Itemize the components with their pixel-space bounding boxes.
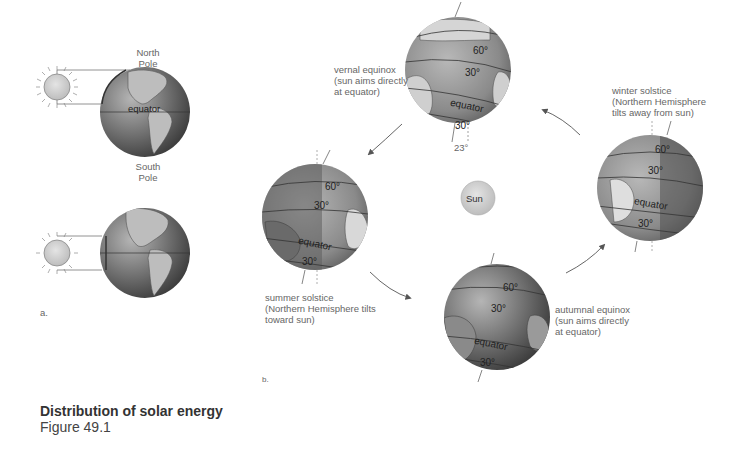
lat-30-label: 30°	[648, 165, 663, 176]
lat-30s-label: 30°	[455, 120, 470, 131]
lat-30-label: 30°	[314, 200, 329, 211]
lat-60-label: 60°	[473, 45, 488, 56]
vernal-equinox-label: vernal equinox (sun aims directly at equ…	[334, 64, 408, 97]
summer-solstice-label: summer solstice (Northern Hemisphere til…	[265, 292, 376, 325]
figure-number: Figure 49.1	[40, 419, 111, 435]
globe-winter-solstice	[597, 121, 710, 252]
lat-30-label: 30°	[491, 303, 506, 314]
winter-solstice-label: winter solstice (Northern Hemisphere til…	[612, 85, 706, 118]
lat-30s-label: 30°	[480, 357, 495, 368]
lat-60-label: 60°	[503, 282, 518, 293]
tilt-angle-label: 23°	[454, 142, 468, 153]
figure-title: Distribution of solar energy	[40, 403, 223, 419]
globe-autumnal-equinox	[444, 253, 550, 382]
equator-label: equator	[128, 103, 160, 114]
sun-icon	[36, 232, 78, 274]
autumnal-equinox-label: autumnal equinox (sun aims directly at e…	[555, 304, 630, 337]
panel-a-top	[36, 66, 190, 157]
lat-30-label: 30°	[465, 67, 480, 78]
lat-30s-label: 30°	[302, 256, 317, 267]
lat-60-label: 60°	[325, 181, 340, 192]
lat-60-label: 60°	[655, 144, 670, 155]
north-pole-label: North Pole	[128, 47, 168, 69]
sun-label: Sun	[466, 193, 483, 204]
panel-a-bottom	[36, 208, 190, 298]
panel-b-label: b.	[262, 374, 269, 385]
lat-30s-label: 30°	[638, 218, 653, 229]
south-pole-label: South Pole	[128, 161, 168, 183]
panel-a-label: a.	[40, 307, 48, 318]
